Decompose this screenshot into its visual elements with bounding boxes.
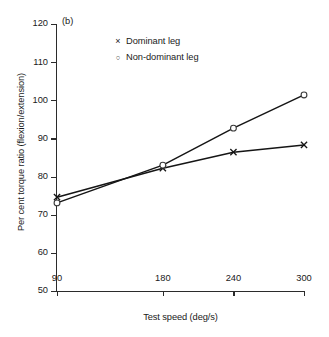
y-tick-label: 90 xyxy=(22,134,48,143)
y-tick-mark xyxy=(51,100,56,101)
x-tick-label: 180 xyxy=(143,274,183,283)
y-tick-mark xyxy=(51,24,56,25)
y-tick-label: 80 xyxy=(22,172,48,181)
x-tick-mark xyxy=(57,291,58,296)
y-tick-label: 110 xyxy=(22,58,48,67)
x-axis-title: Test speed (deg/s) xyxy=(57,312,304,322)
data-point-marker-circle xyxy=(160,162,166,168)
legend-item: ○Non-dominant leg xyxy=(110,49,199,65)
x-axis-line xyxy=(56,291,304,292)
y-tick-mark xyxy=(51,138,56,139)
data-point-marker-circle xyxy=(301,92,307,98)
x-tick-mark xyxy=(233,291,234,296)
data-point-marker-circle xyxy=(54,200,60,206)
y-tick-label: 100 xyxy=(22,96,48,105)
y-tick-label: 60 xyxy=(22,248,48,257)
chart-legend: ×Dominant leg○Non-dominant leg xyxy=(110,33,199,65)
legend-item-label: Dominant leg xyxy=(126,36,180,46)
y-tick-mark xyxy=(51,215,56,216)
x-tick-label: 240 xyxy=(213,274,253,283)
legend-circle-icon: ○ xyxy=(110,53,126,62)
y-tick-mark xyxy=(51,62,56,63)
y-tick-mark xyxy=(51,291,56,292)
y-tick-label: 70 xyxy=(22,210,48,219)
legend-item: ×Dominant leg xyxy=(110,33,199,49)
legend-item-label: Non-dominant leg xyxy=(126,52,199,62)
x-tick-mark xyxy=(304,291,305,296)
data-point-marker-circle xyxy=(231,125,237,131)
chart-figure: (b) Per cent torque ratio (flexion/exten… xyxy=(0,0,329,337)
x-tick-mark xyxy=(163,291,164,296)
y-tick-mark xyxy=(51,253,56,254)
x-tick-label: 300 xyxy=(284,274,324,283)
y-tick-label: 120 xyxy=(22,19,48,28)
legend-cross-icon: × xyxy=(110,36,126,46)
x-tick-label: 90 xyxy=(37,274,77,283)
y-tick-label: 50 xyxy=(22,286,48,295)
y-tick-mark xyxy=(51,177,56,178)
